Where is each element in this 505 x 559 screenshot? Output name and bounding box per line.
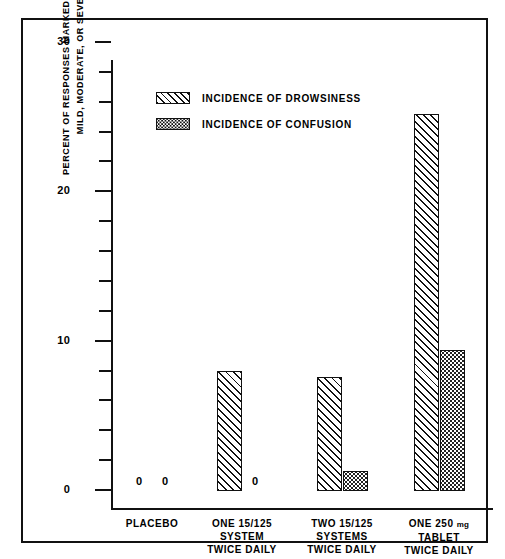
y-axis-title-line1: PERCENT OF RESPONSES MARKED AS EITHER: [59, 0, 73, 175]
bar: [217, 371, 242, 491]
y-axis-minor-tick: [99, 71, 111, 73]
y-axis-major-tick: [95, 489, 111, 491]
bar: [440, 350, 465, 491]
y-axis-title-line2: MILD, MODERATE, OR SEVERE: [73, 0, 87, 175]
legend-swatch-drowsiness-icon: [156, 92, 190, 104]
legend-item: INCIDENCE OF CONFUSION: [156, 118, 361, 130]
bar: [317, 377, 342, 491]
x-axis-category-label: PLACEBO: [100, 517, 204, 530]
y-axis-tick-label: 10: [40, 335, 70, 346]
x-axis-category-label: TWO 15/125SYSTEMSTWICE DAILY: [290, 517, 394, 556]
legend-item: INCIDENCE OF DROWSINESS: [156, 92, 361, 104]
y-axis-minor-tick: [99, 429, 111, 431]
x-axis-category-label-line: TABLET: [387, 531, 491, 544]
y-axis-minor-tick: [99, 280, 111, 282]
y-axis-title: PERCENT OF RESPONSES MARKED AS EITHER MI…: [59, 0, 87, 175]
x-axis-category-label-line: TWICE DAILY: [387, 544, 491, 557]
y-axis-tick-label: 0: [40, 484, 70, 495]
x-axis-category-label-line: ONE 250 mg: [387, 517, 491, 531]
bar-zero-value-label: 0: [132, 476, 146, 487]
y-axis-minor-tick: [99, 399, 111, 401]
bar-zero-value-label: 0: [158, 476, 172, 487]
y-axis-minor-tick: [99, 370, 111, 372]
legend-item-label: INCIDENCE OF CONFUSION: [202, 119, 352, 130]
plot-area: 0102030 PERCENT OF RESPONSES MARKED AS E…: [23, 20, 486, 541]
bar: [414, 114, 439, 491]
y-axis-minor-tick: [99, 160, 111, 162]
x-axis-category-label: ONE 15/125SYSTEMTWICE DAILY: [190, 517, 294, 556]
chart-legend: INCIDENCE OF DROWSINESSINCIDENCE OF CONF…: [156, 92, 361, 144]
y-axis-minor-tick: [99, 101, 111, 103]
y-axis-major-tick: [95, 190, 111, 192]
x-axis-category-label: ONE 250 mgTABLETTWICE DAILY: [387, 517, 491, 557]
x-axis-category-label-line: TWICE DAILY: [290, 543, 394, 556]
x-axis-category-label-line: SYSTEMS: [290, 530, 394, 543]
y-axis-major-tick: [95, 41, 111, 43]
y-axis-line: [111, 60, 113, 510]
x-axis-line: [111, 508, 493, 510]
x-axis-category-label-line: TWICE DAILY: [190, 543, 294, 556]
figure-frame: 0102030 PERCENT OF RESPONSES MARKED AS E…: [21, 18, 488, 543]
legend-item-label: INCIDENCE OF DROWSINESS: [202, 93, 361, 104]
x-axis-category-label-line: ONE 15/125: [190, 517, 294, 530]
y-axis-minor-tick: [99, 250, 111, 252]
y-axis-tick-label: 20: [40, 185, 70, 196]
unit-text: mg: [457, 520, 469, 529]
y-axis-minor-tick: [99, 310, 111, 312]
y-axis-minor-tick: [99, 131, 111, 133]
y-axis-minor-tick: [99, 220, 111, 222]
legend-swatch-confusion-icon: [156, 118, 190, 130]
x-axis-category-label-line: PLACEBO: [100, 517, 204, 530]
y-axis-minor-tick: [99, 459, 111, 461]
bar: [343, 471, 368, 491]
x-axis-category-label-line: TWO 15/125: [290, 517, 394, 530]
y-axis-major-tick: [95, 340, 111, 342]
x-axis-category-label-line: SYSTEM: [190, 530, 294, 543]
bar-zero-value-label: 0: [248, 476, 262, 487]
